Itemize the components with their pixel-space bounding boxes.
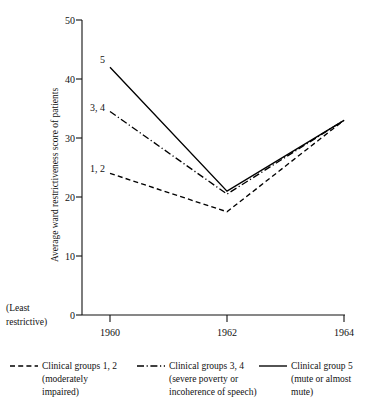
legend-desc1-clinical-group-5: (mute or almost <box>291 374 352 385</box>
y-tick-label-30: 30 <box>65 133 75 144</box>
series-tag-groups-3-4: 3, 4 <box>90 102 105 113</box>
x-tick-label-1960: 1960 <box>100 327 120 338</box>
legend-desc2-clinical-groups-3-4: incoherence of speech) <box>169 387 257 398</box>
series-tag-group-5: 5 <box>100 54 105 65</box>
legend-label-clinical-groups-1-2: Clinical groups 1, 2 <box>42 361 117 371</box>
legend-desc2-clinical-group-5: mute) <box>291 387 313 398</box>
chart-canvas: Average ward restrictiveness score of pa… <box>0 0 376 407</box>
y-tick-label-20: 20 <box>65 192 75 203</box>
y-tick-label-50: 50 <box>65 15 75 26</box>
y-axis-title: Average ward restrictiveness score of pa… <box>50 88 60 262</box>
x-tick-label-1962: 1962 <box>217 327 237 338</box>
y-tick-label-10: 10 <box>65 251 75 262</box>
least-restrictive-note-line2: restrictive) <box>6 317 47 328</box>
series-line-clinical-group-5 <box>110 67 344 191</box>
y-tick-label-0: 0 <box>70 310 75 321</box>
x-tick-label-1964: 1964 <box>334 327 354 338</box>
series-line-clinical-groups-3-4 <box>110 112 344 195</box>
y-tick-label-40: 40 <box>65 74 75 85</box>
legend-label-clinical-groups-3-4: Clinical groups 3, 4 <box>169 361 244 371</box>
series-line-clinical-groups-1-2 <box>110 120 344 212</box>
legend-desc2-clinical-groups-1-2: impaired) <box>42 387 79 398</box>
series-tag-groups-1-2: 1, 2 <box>90 163 105 174</box>
legend-desc1-clinical-groups-3-4: (severe poverty or <box>169 374 239 385</box>
legend-label-clinical-group-5: Clinical group 5 <box>291 361 353 371</box>
legend-desc1-clinical-groups-1-2: (moderately <box>42 374 88 385</box>
line-chart-figure: Average ward restrictiveness score of pa… <box>0 0 376 407</box>
least-restrictive-note-line1: (Least <box>6 303 30 314</box>
